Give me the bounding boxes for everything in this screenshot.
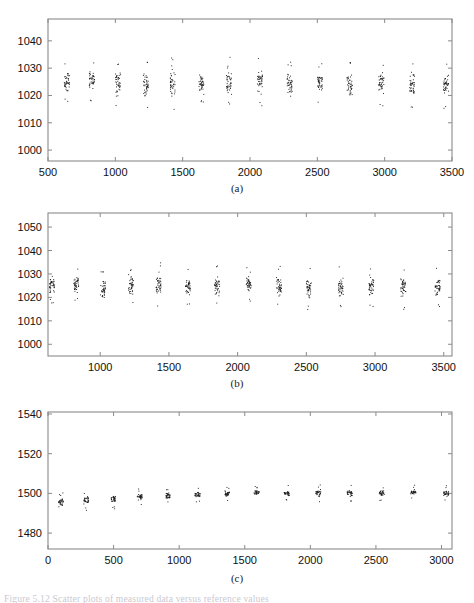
svg-text:3000: 3000 bbox=[429, 554, 453, 566]
scatter-plot-panel-c: 0500100015002000250030001480150015201540 bbox=[0, 402, 474, 577]
svg-text:1000: 1000 bbox=[88, 361, 112, 373]
panel-a-caption: (a) bbox=[0, 182, 474, 194]
svg-text:3000: 3000 bbox=[372, 166, 396, 178]
svg-text:1520: 1520 bbox=[18, 448, 42, 460]
svg-text:1500: 1500 bbox=[157, 361, 181, 373]
svg-text:1010: 1010 bbox=[18, 315, 42, 327]
svg-text:500: 500 bbox=[104, 554, 122, 566]
svg-text:1000: 1000 bbox=[103, 166, 127, 178]
panel-a-svg: 5001000150020002500300035001000101010201… bbox=[0, 8, 474, 183]
svg-text:3500: 3500 bbox=[432, 361, 456, 373]
svg-text:500: 500 bbox=[39, 166, 57, 178]
svg-text:1000: 1000 bbox=[167, 554, 191, 566]
scatter-plot-panel-a: 5001000150020002500300035001000101010201… bbox=[0, 8, 474, 183]
svg-text:3500: 3500 bbox=[440, 166, 464, 178]
panel-c-caption: (c) bbox=[0, 572, 474, 584]
panel-b-caption: (b) bbox=[0, 377, 474, 389]
svg-text:1010: 1010 bbox=[18, 117, 42, 129]
svg-text:1030: 1030 bbox=[18, 62, 42, 74]
svg-text:1020: 1020 bbox=[18, 291, 42, 303]
svg-text:2000: 2000 bbox=[298, 554, 322, 566]
svg-text:1480: 1480 bbox=[18, 527, 42, 539]
svg-text:1540: 1540 bbox=[18, 408, 42, 420]
svg-text:1030: 1030 bbox=[18, 268, 42, 280]
panel-c-svg: 0500100015002000250030001480150015201540 bbox=[0, 402, 474, 577]
svg-text:2000: 2000 bbox=[238, 166, 262, 178]
figure-container: 5001000150020002500300035001000101010201… bbox=[0, 0, 474, 603]
svg-text:1500: 1500 bbox=[18, 487, 42, 499]
svg-text:1000: 1000 bbox=[18, 338, 42, 350]
panel-b-svg: 1000150020002500300035001000101010201030… bbox=[0, 205, 474, 380]
svg-text:2500: 2500 bbox=[364, 554, 388, 566]
svg-text:1500: 1500 bbox=[233, 554, 257, 566]
svg-text:2500: 2500 bbox=[305, 166, 329, 178]
svg-text:0: 0 bbox=[45, 554, 51, 566]
svg-text:1040: 1040 bbox=[18, 245, 42, 257]
scatter-plot-panel-b: 1000150020002500300035001000101010201030… bbox=[0, 205, 474, 380]
svg-text:1050: 1050 bbox=[18, 221, 42, 233]
svg-text:1000: 1000 bbox=[18, 144, 42, 156]
svg-text:1500: 1500 bbox=[170, 166, 194, 178]
svg-text:1020: 1020 bbox=[18, 89, 42, 101]
svg-text:2500: 2500 bbox=[294, 361, 318, 373]
svg-text:1040: 1040 bbox=[18, 35, 42, 47]
svg-text:2000: 2000 bbox=[225, 361, 249, 373]
figure-bottom-caption: Figure 5.12 Scatter plots of measured da… bbox=[4, 594, 470, 603]
svg-text:3000: 3000 bbox=[363, 361, 387, 373]
